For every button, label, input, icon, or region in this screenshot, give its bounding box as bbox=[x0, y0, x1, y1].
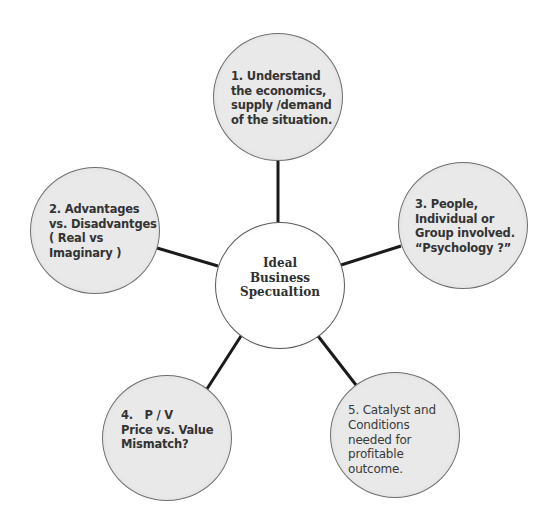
node-5-label: 5. Catalyst and Conditions needed for pr… bbox=[348, 403, 436, 477]
node-2-label: 2. Advantages vs. Disadvantges ( Real vs… bbox=[49, 202, 157, 260]
connector-center-to-node-4 bbox=[205, 336, 241, 392]
connector-center-to-node-3 bbox=[341, 246, 401, 265]
connector-center-to-node-2 bbox=[157, 248, 218, 266]
center-node-title: Ideal Business Specualtion bbox=[230, 256, 330, 300]
mind-map-diagram: 1. Understand the economics, supply /dem… bbox=[0, 0, 556, 532]
connector-center-to-node-5 bbox=[318, 336, 356, 385]
node-1-label: 1. Understand the economics, supply /dem… bbox=[231, 69, 332, 127]
node-3-label: 3. People, Individual or Group involved.… bbox=[415, 197, 515, 255]
node-4-label: 4. P / V Price vs. Value Mismatch? bbox=[121, 408, 213, 452]
